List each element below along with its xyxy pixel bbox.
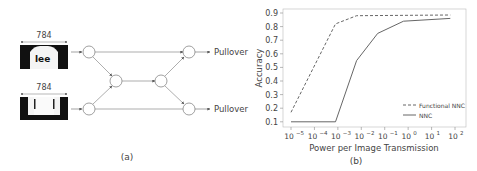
x-tick-label: 10	[401, 132, 411, 141]
caption-a: (a)	[121, 152, 134, 162]
y-axis-label: Accuracy	[254, 49, 264, 88]
x-tick-label: 10	[355, 132, 365, 141]
y-axis: 0.10.20.30.40.50.60.70.80.9	[265, 9, 283, 127]
input-image-trousers	[20, 93, 68, 120]
svg-text:0: 0	[413, 130, 417, 136]
figure: lee 784 784	[0, 0, 477, 171]
panel-b: 0.10.20.30.40.50.60.70.80.9 10−510−410−3…	[254, 9, 466, 166]
x-tick-label: 10	[308, 132, 318, 141]
output-label: Pullover	[214, 104, 249, 114]
network-edges	[93, 52, 184, 109]
caption-b: (b)	[350, 156, 363, 166]
y-tick-label: 0.4	[265, 77, 278, 86]
svg-text:2: 2	[460, 130, 464, 136]
network-node	[83, 46, 95, 58]
y-tick-label: 0.2	[265, 104, 278, 113]
legend-entry: NNC	[419, 112, 432, 119]
svg-text:−5: −5	[296, 130, 305, 136]
svg-text:−2: −2	[366, 130, 374, 136]
svg-text:lee: lee	[35, 54, 50, 64]
svg-text:−4: −4	[319, 130, 328, 136]
input-dim-label: 784	[36, 31, 51, 40]
input-dim-label: 784	[36, 83, 51, 92]
network-node	[83, 103, 95, 115]
x-axis: 10−510−410−310−210−1100101102	[284, 127, 463, 141]
y-tick-label: 0.3	[265, 91, 278, 100]
output-label: Pullover	[214, 47, 249, 57]
y-tick-label: 0.8	[265, 23, 278, 32]
y-tick-label: 0.5	[265, 63, 278, 72]
x-tick-label: 10	[425, 132, 435, 141]
network-node	[110, 75, 122, 87]
x-tick-label: 10	[378, 132, 388, 141]
y-tick-label: 0.9	[265, 9, 278, 18]
svg-text:−3: −3	[343, 130, 352, 136]
plot-area	[283, 9, 466, 127]
svg-text:1: 1	[437, 130, 441, 136]
input-image-shirt: lee	[20, 41, 68, 69]
x-tick-label: 10	[448, 132, 458, 141]
network-node	[155, 75, 167, 87]
y-tick-label: 0.7	[265, 36, 278, 45]
y-tick-label: 0.6	[265, 50, 278, 59]
network-node	[183, 46, 195, 58]
panel-a: lee 784 784	[20, 31, 249, 162]
x-tick-label: 10	[284, 132, 294, 141]
network-node	[183, 103, 195, 115]
x-tick-label: 10	[331, 132, 341, 141]
x-axis-label: Power per Image Transmission	[309, 143, 438, 153]
svg-text:−1: −1	[390, 130, 398, 136]
y-tick-label: 0.1	[265, 118, 278, 127]
legend-entry: Functional NNC	[419, 102, 465, 109]
